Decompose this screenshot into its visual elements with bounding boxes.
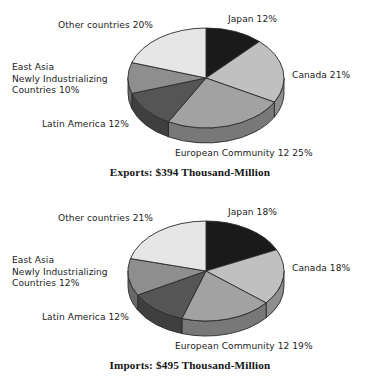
slice-label-latin-america: Latin America 12% xyxy=(42,312,129,324)
slice-label-east-asia-nic: East Asia Newly Industrializing Countrie… xyxy=(12,255,108,290)
slice-label-latin-america: Latin America 12% xyxy=(42,119,129,131)
pie-chart-exports: Japan 12% Canada 21% European Community … xyxy=(0,0,380,193)
pie-graphic-imports xyxy=(118,209,294,347)
slice-label-other-countries: Other countries 21% xyxy=(58,213,153,225)
slice-label-east-asia-nic: East Asia Newly Industrializing Countrie… xyxy=(12,62,108,97)
slice-label-european-community: European Community 12 19% xyxy=(175,341,313,353)
slice-label-japan: Japan 12% xyxy=(228,14,277,26)
slice-label-canada: Canada 18% xyxy=(292,263,350,275)
chart-caption-exports: Exports: $394 Thousand-Million xyxy=(0,166,380,178)
slice-label-other-countries: Other countries 20% xyxy=(58,20,153,32)
slice-label-japan: Japan 18% xyxy=(228,207,277,219)
pie-chart-imports: Japan 18% Canada 18% European Community … xyxy=(0,193,380,386)
slice-label-european-community: European Community 12 25% xyxy=(175,148,313,160)
pie-graphic-exports xyxy=(118,16,294,154)
chart-caption-imports: Imports: $495 Thousand-Million xyxy=(0,359,380,371)
slice-label-canada: Canada 21% xyxy=(292,70,350,82)
